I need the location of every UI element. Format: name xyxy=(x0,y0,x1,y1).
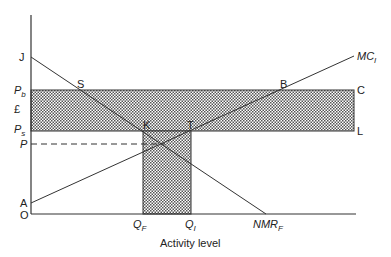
curve-label-nmr-f: NMRF xyxy=(253,218,284,233)
point-label-j: J xyxy=(19,51,25,63)
point-label-l: L xyxy=(357,125,363,137)
price-label-p: P xyxy=(20,138,28,150)
price-label-ps: Ps xyxy=(14,123,25,138)
curve-label-mc-i: MCI xyxy=(357,50,377,65)
point-label-k: K xyxy=(143,119,151,131)
quantity-label-qi: QI xyxy=(185,218,197,233)
currency-label: £ xyxy=(14,103,20,115)
shaded-rect-qf-qi xyxy=(143,131,191,214)
x-axis-label: Activity level xyxy=(160,237,221,249)
point-label-t: T xyxy=(187,119,194,131)
diagram-canvas: J S B C K T L A O £ Pb Ps P QF QI MCI NM… xyxy=(0,0,391,257)
point-label-s: S xyxy=(77,78,84,90)
point-label-a: A xyxy=(20,197,28,209)
origin-label: O xyxy=(20,209,29,221)
point-label-b: B xyxy=(280,78,287,90)
quantity-label-qf: QF xyxy=(133,218,148,233)
price-label-pb: Pb xyxy=(14,84,26,99)
point-label-c: C xyxy=(357,84,365,96)
